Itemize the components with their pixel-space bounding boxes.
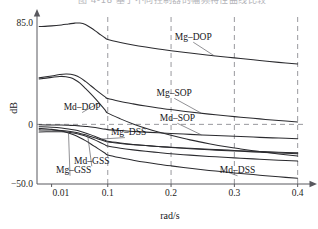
x-tick-label: 0.2 bbox=[165, 188, 177, 198]
x-axis-tick-labels: 0.010.10.20.30.4 bbox=[53, 188, 304, 198]
curve-mg-dss bbox=[39, 127, 298, 154]
curve-mg-dop bbox=[39, 23, 298, 64]
y-axis-title: dB bbox=[8, 102, 19, 114]
series-label-mgdss: Mg–DSS bbox=[111, 127, 146, 137]
leader-line bbox=[102, 138, 125, 139]
vertical-gridlines bbox=[108, 17, 298, 184]
series-label-mgsop: Mg–SOP bbox=[157, 88, 192, 98]
figure-caption-strip: 图 4-18 基于不同控制器的幅频特性曲线比较 bbox=[0, 0, 317, 9]
series-label-mdgss: Md–GSS bbox=[74, 156, 109, 166]
y-tick-label: −50.0 bbox=[11, 179, 33, 189]
y-tick-label: 0 bbox=[28, 120, 33, 130]
leader-line bbox=[177, 123, 201, 135]
series-label-mgdop: Mg–DOP bbox=[175, 32, 212, 42]
chart-canvas: 0.010.10.20.30.4 85.00−50.0 rad/s dB Mg–… bbox=[0, 0, 317, 229]
bode-magnitude-figure: 图 4-18 基于不同控制器的幅频特性曲线比较 0.010.10.20.30.4… bbox=[0, 0, 317, 229]
x-tick-label: 0.3 bbox=[228, 188, 240, 198]
series-label-mddop: Md–DOP bbox=[64, 102, 101, 112]
series-label-mggss: Mg–GSS bbox=[56, 165, 91, 175]
x-tick-label: 0.4 bbox=[292, 188, 304, 198]
y-axis-arrowhead bbox=[34, 9, 40, 17]
x-tick-label: 0.01 bbox=[53, 188, 70, 198]
x-axis-arrowhead bbox=[310, 181, 318, 187]
x-tick-label: 0.1 bbox=[102, 188, 114, 198]
figure-caption-text: 图 4-18 基于不同控制器的幅频特性曲线比较 bbox=[78, 0, 266, 6]
series-label-mdsop: Md–SOP bbox=[160, 113, 195, 123]
series-annotation-labels: Mg–DOPMg–SOPMd–DOPMd–SOPMg–DSSMd–GSSMg–G… bbox=[56, 32, 255, 176]
series-label-mddss: Md–DSS bbox=[220, 165, 255, 175]
y-tick-label: 85.0 bbox=[16, 18, 33, 28]
x-axis-title: rad/s bbox=[160, 210, 180, 221]
